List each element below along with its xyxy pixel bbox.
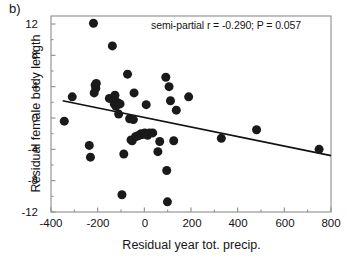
- data-point: [165, 82, 174, 91]
- data-point: [163, 197, 172, 206]
- figure-panel-b: b) Residual female body length Residual …: [0, 0, 347, 264]
- data-point: [86, 153, 95, 162]
- data-point: [89, 19, 98, 28]
- data-point: [130, 88, 139, 97]
- data-point: [162, 166, 171, 175]
- data-point: [60, 117, 69, 126]
- axis-ticks: [51, 24, 331, 212]
- data-point: [85, 141, 94, 150]
- data-point: [148, 128, 157, 137]
- data-point: [117, 190, 126, 199]
- data-point: [252, 125, 261, 134]
- regression-trendline: [63, 101, 331, 156]
- data-point: [108, 41, 117, 50]
- data-point: [155, 137, 164, 146]
- data-point: [123, 70, 132, 79]
- data-point: [119, 150, 128, 159]
- data-point: [161, 73, 170, 82]
- data-point: [169, 136, 178, 145]
- data-point: [68, 92, 77, 101]
- data-point: [142, 100, 151, 109]
- axis-frame: [51, 16, 331, 212]
- data-point: [166, 96, 175, 105]
- scatter-plot-canvas: [0, 0, 347, 264]
- data-point: [153, 147, 162, 156]
- data-point: [172, 106, 181, 115]
- data-point: [184, 92, 193, 101]
- data-point: [129, 115, 138, 124]
- data-point: [114, 110, 123, 119]
- data-point: [92, 79, 101, 88]
- data-point: [315, 145, 324, 154]
- data-point: [217, 134, 226, 143]
- data-point: [116, 99, 125, 108]
- data-points-group: [60, 19, 324, 207]
